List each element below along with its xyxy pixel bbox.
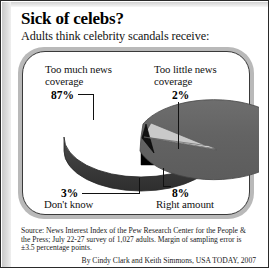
leader-dont-know-vertical [139, 178, 140, 194]
page-subtitle: Adults think celebrity scandals receive: [21, 29, 209, 44]
label-dont-know: Don't know [44, 199, 118, 211]
leader-right-amount-horizontal [163, 186, 171, 187]
leader-too-much-horizontal [78, 94, 94, 95]
label-too-much: Too much news coverage [45, 64, 131, 87]
leader-too-little-vertical [178, 102, 179, 149]
top-edge-strip [2, 2, 269, 7]
chart-panel-inner: Too much news coverage 87% Too little ne… [22, 51, 250, 215]
pie-extrusion-dont-know [141, 152, 154, 165]
pie-extrusion-right-amount [148, 124, 214, 164]
page-title: Sick of celebs? [21, 9, 124, 29]
pie-slice-too-little [144, 137, 217, 149]
pie-extrusion-too-little [209, 146, 217, 162]
usa-today-snapshot-infographic: Sick of celebs? Adults think celebrity s… [0, 0, 269, 268]
percent-too-much: 87% [51, 89, 74, 101]
leader-right-amount-vertical [163, 168, 164, 187]
leader-dont-know-horizontal [82, 193, 140, 194]
pie-extrusion-too-much [64, 137, 218, 191]
source-note: Source: News Interest Index of the Pew R… [21, 227, 249, 253]
pie-slice-dont-know [142, 124, 154, 153]
label-right-amount: Right amount [156, 199, 236, 211]
pie-slice-too-much [140, 100, 259, 180]
left-edge-strip [2, 2, 11, 268]
credit-byline: By Cindy Clark and Keith Simmons, USA TO… [82, 256, 256, 265]
leader-too-much-vertical [93, 94, 94, 120]
label-too-little: Too little news coverage [154, 64, 234, 87]
pie-slice-right-amount [143, 123, 217, 150]
percent-too-little: 2% [172, 89, 189, 101]
chart-panel: Too much news coverage 87% Too little ne… [18, 47, 254, 219]
